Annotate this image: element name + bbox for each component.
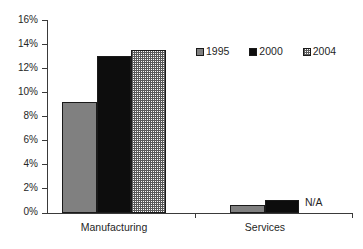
y-axis-label-8: 8% [24,111,38,121]
x-axis-label-manufacturing: Manufacturing [62,221,166,233]
x-axis-line [47,213,353,214]
y-axis-label-16: 16% [18,15,38,25]
y-axis-label-12: 12% [18,63,38,73]
y-axis-line [47,20,48,214]
bar-chart: 16% 14% 12% 10% 8% 6% 4% 2% 0% N/A Manuf… [0,0,363,249]
legend-item-2000[interactable]: 2000 [249,46,282,57]
chart-legend: 1995 2000 2004 [196,46,336,57]
x-axis-tick-category-divider [195,213,196,218]
bar-group-manufacturing [62,20,166,213]
legend-swatch-2000-icon [249,48,257,56]
na-annotation-services-2004: N/A [305,196,323,208]
y-axis-label-10: 10% [18,87,38,97]
y-axis-label-6: 6% [24,135,38,145]
legend-item-2004[interactable]: 2004 [303,46,336,57]
legend-swatch-2004-icon [303,48,311,56]
bar-manufacturing-2000[interactable] [97,56,131,213]
legend-label-2000: 2000 [259,46,282,57]
y-axis-label-2: 2% [24,183,38,193]
legend-label-1995: 1995 [206,46,229,57]
y-axis-label-0: 0% [24,207,38,217]
bar-manufacturing-2004[interactable] [131,50,166,213]
legend-swatch-1995-icon [196,48,204,56]
bar-services-1995[interactable] [230,205,265,213]
x-axis-tick-right-end [352,213,353,218]
bar-services-2000[interactable] [265,200,299,213]
legend-label-2004: 2004 [313,46,336,57]
y-axis-label-14: 14% [18,39,38,49]
x-axis-label-services: Services [230,221,300,233]
bar-manufacturing-1995[interactable] [62,102,97,213]
legend-item-1995[interactable]: 1995 [196,46,229,57]
y-axis-label-4: 4% [24,159,38,169]
